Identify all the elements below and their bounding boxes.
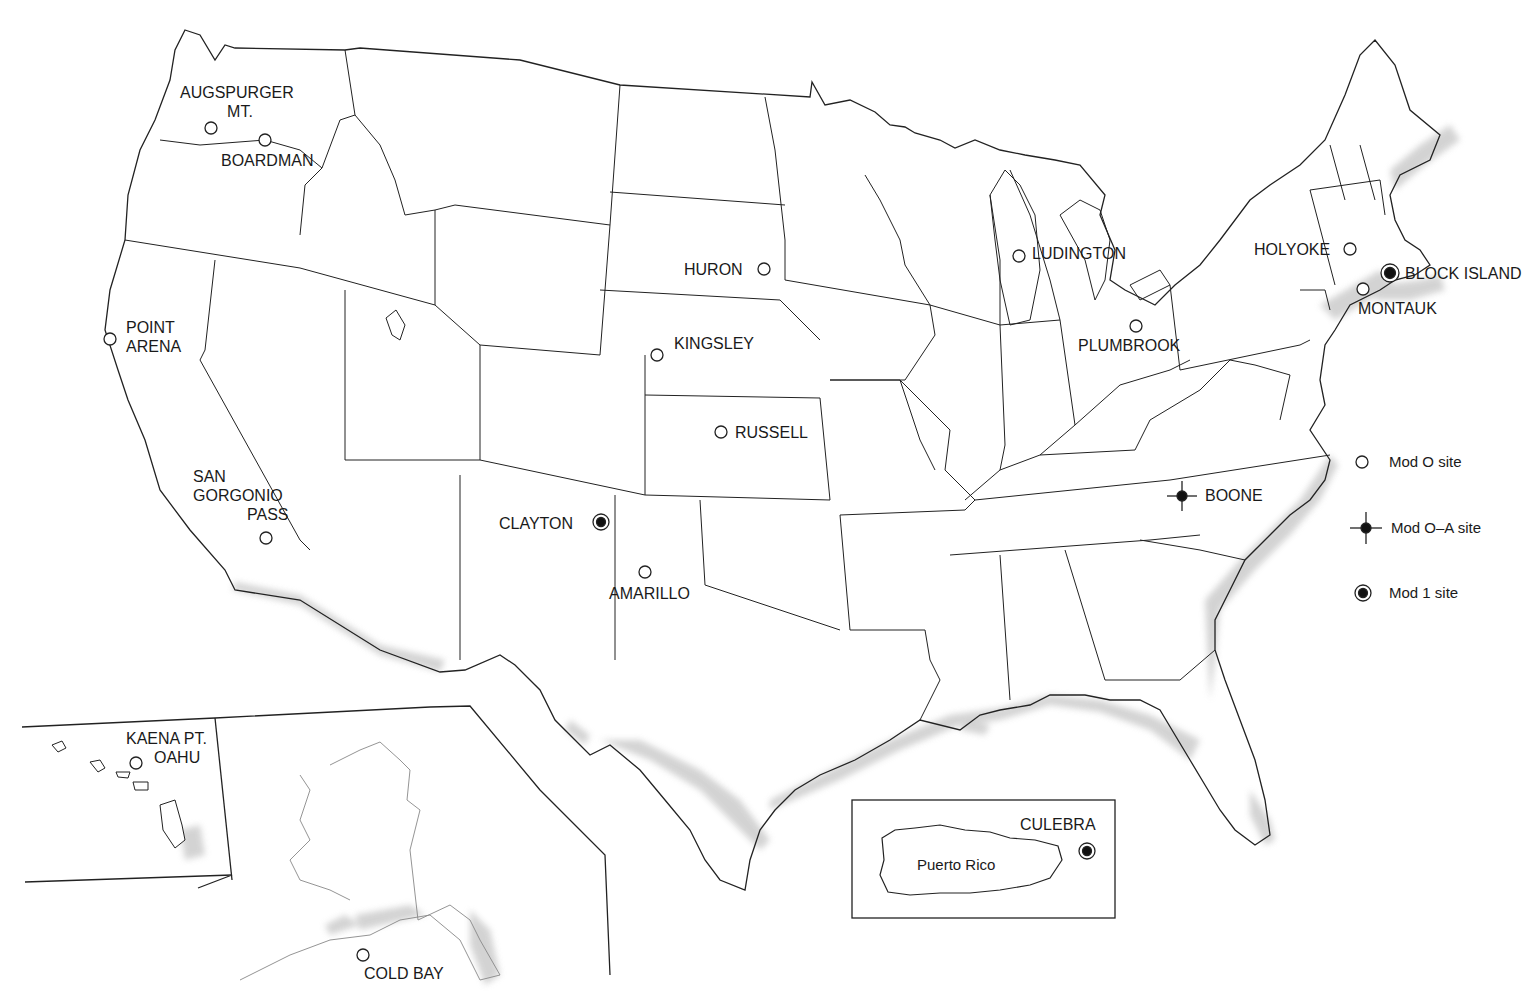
marker-augspurger[interactable] bbox=[205, 122, 217, 134]
marker-san-gorgonio[interactable] bbox=[260, 532, 272, 544]
label-clayton: CLAYTON bbox=[499, 514, 573, 533]
marker-ludington[interactable] bbox=[1013, 250, 1025, 262]
marker-russell[interactable] bbox=[715, 426, 727, 438]
label-montauk: MONTAUK bbox=[1358, 299, 1437, 318]
marker-block-island[interactable] bbox=[1381, 264, 1399, 282]
label-boardman: BOARDMAN bbox=[221, 151, 313, 170]
label-russell: RUSSELL bbox=[735, 423, 808, 442]
marker-boardman[interactable] bbox=[259, 134, 271, 146]
marker-montauk[interactable] bbox=[1357, 283, 1369, 295]
alaska-outline bbox=[240, 742, 500, 980]
label-puerto-rico: Puerto Rico bbox=[917, 855, 995, 874]
label-kaena-pt: KAENA PT. OAHU bbox=[126, 729, 207, 767]
label-kingsley: KINGSLEY bbox=[674, 334, 754, 353]
label-amarillo: AMARILLO bbox=[609, 584, 690, 603]
label-block-island: BLOCK ISLAND bbox=[1405, 264, 1521, 283]
marker-plumbrook[interactable] bbox=[1130, 320, 1142, 332]
label-culebra: CULEBRA bbox=[1020, 815, 1096, 834]
marker-point-arena[interactable] bbox=[104, 333, 116, 345]
marker-amarillo[interactable] bbox=[639, 566, 651, 578]
label-boone: BOONE bbox=[1205, 486, 1263, 505]
marker-kingsley[interactable] bbox=[651, 349, 663, 361]
legend-label-mod-o-a: Mod O–A site bbox=[1391, 519, 1481, 536]
marker-boone[interactable] bbox=[1167, 481, 1197, 511]
label-huron: HURON bbox=[684, 260, 743, 279]
label-cold-bay: COLD BAY bbox=[364, 964, 444, 983]
marker-culebra[interactable] bbox=[1079, 843, 1095, 859]
marker-clayton[interactable] bbox=[593, 514, 609, 530]
legend-label-mod-o: Mod O site bbox=[1389, 453, 1462, 470]
label-plumbrook: PLUMBROOK bbox=[1078, 336, 1180, 355]
label-san-gorgonio: SAN GORGONIO PASS bbox=[193, 467, 289, 524]
label-holyoke: HOLYOKE bbox=[1254, 240, 1330, 259]
marker-holyoke[interactable] bbox=[1344, 243, 1356, 255]
marker-cold-bay[interactable] bbox=[357, 949, 369, 961]
label-ludington: LUDINGTON bbox=[1032, 244, 1126, 263]
legend-label-mod-1: Mod 1 site bbox=[1389, 584, 1458, 601]
legend-bullseye-icon bbox=[1355, 585, 1371, 601]
label-point-arena: POINT ARENA bbox=[126, 318, 181, 356]
label-augspurger: AUGSPURGER MT. bbox=[180, 83, 282, 121]
legend-open-circle-icon bbox=[1356, 456, 1368, 468]
legend-cross-dot-icon bbox=[1350, 512, 1382, 544]
marker-huron[interactable] bbox=[758, 263, 770, 275]
